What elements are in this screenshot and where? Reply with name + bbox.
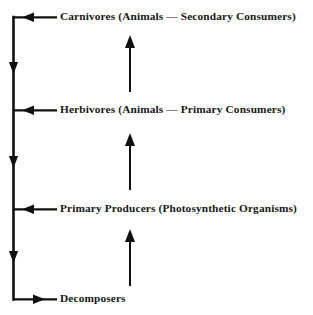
connector-herbivores-to-carnivores xyxy=(125,35,135,92)
connector-trunk-descent-lower xyxy=(9,251,18,263)
herbivores-to-carnivores-arrowhead-up-icon xyxy=(125,35,135,48)
connector-trunk-descent-upper xyxy=(9,62,18,74)
producers-arrowhead-left-icon xyxy=(22,205,34,214)
flow-connector-graphic xyxy=(0,0,313,315)
connector-decomposers-to-producers xyxy=(125,229,135,286)
connector-trunk-to-decomposers xyxy=(14,295,58,304)
decomposers-to-producers-arrowhead-up-icon xyxy=(125,229,135,242)
node-label-carnivores: Carnivores (Animals — Secondary Consumer… xyxy=(60,11,296,22)
connector-herbivores-to-trunk xyxy=(14,106,58,115)
herbivores-arrowhead-left-icon xyxy=(22,106,34,115)
node-label-primary-producers: Primary Producers (Photosynthetic Organi… xyxy=(60,203,297,214)
connector-trunk-descent-middle xyxy=(9,156,18,168)
trunk-arrowhead-down-upper-icon xyxy=(9,62,18,74)
trunk-arrowhead-down-middle-icon xyxy=(9,156,18,168)
trunk-arrowhead-down-lower-icon xyxy=(9,251,18,263)
node-label-decomposers: Decomposers xyxy=(60,293,126,304)
decomposers-arrowhead-right-icon xyxy=(33,295,45,304)
connector-producers-to-herbivores xyxy=(125,133,135,190)
node-label-herbivores: Herbivores (Animals — Primary Consumers) xyxy=(60,104,285,115)
carnivores-arrowhead-left-icon xyxy=(22,13,34,22)
connector-carnivores-to-trunk xyxy=(14,13,58,22)
producers-to-herbivores-arrowhead-up-icon xyxy=(125,133,135,146)
energy-flow-diagram: Carnivores (Animals — Secondary Consumer… xyxy=(0,0,313,315)
connector-producers-to-trunk xyxy=(14,205,58,214)
